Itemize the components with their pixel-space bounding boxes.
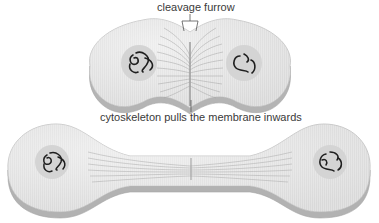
cytokinesis-diagram: cleavage furrow cytoskeleton pulls the m… <box>0 0 379 223</box>
dividing-cell <box>8 124 370 218</box>
cleavage-furrow-label: cleavage furrow <box>157 1 235 13</box>
cytoskeleton-label: cytoskeleton pulls the membrane inwards <box>100 111 302 123</box>
nucleus-right <box>226 45 262 81</box>
pinching-cell <box>90 19 291 114</box>
